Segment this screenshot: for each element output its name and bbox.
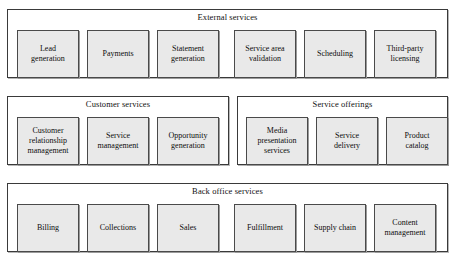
node-box[interactable]: Billing: [17, 204, 79, 252]
diagram-canvas: External servicesLead generationPayments…: [0, 0, 455, 265]
node-box[interactable]: Opportunity generation: [157, 117, 219, 165]
node-label: Lead generation: [31, 44, 65, 64]
node-box[interactable]: Content management: [374, 204, 436, 252]
node-label: Opportunity generation: [168, 131, 207, 151]
node-label: Media presentation services: [257, 126, 296, 156]
node-box[interactable]: Sales: [157, 204, 219, 252]
node-box[interactable]: Scheduling: [304, 30, 366, 78]
group-nodes: BillingCollectionsSalesFulfillmentSupply…: [8, 197, 447, 251]
node-label: Collections: [100, 223, 136, 233]
node-label: Payments: [102, 49, 133, 59]
node-label: Sales: [180, 223, 197, 233]
node-label: Product catalog: [405, 131, 430, 151]
node-box[interactable]: Product catalog: [386, 117, 448, 165]
node-box[interactable]: Media presentation services: [246, 117, 308, 165]
node-box[interactable]: Third-party licensing: [374, 30, 436, 78]
group-external-services: External servicesLead generationPayments…: [7, 9, 448, 78]
group-nodes: Customer relationship managementService …: [8, 110, 228, 164]
group-customer-services: Customer servicesCustomer relationship m…: [7, 96, 229, 165]
node-label: Supply chain: [314, 223, 356, 233]
node-label: Third-party licensing: [387, 44, 424, 64]
node-label: Scheduling: [317, 49, 353, 59]
node-box[interactable]: Supply chain: [304, 204, 366, 252]
group-title: External services: [8, 12, 447, 22]
node-label: Customer relationship management: [28, 126, 69, 156]
group-back-office-services: Back office servicesBillingCollectionsSa…: [7, 183, 448, 252]
node-box[interactable]: Statement generation: [157, 30, 219, 78]
node-box[interactable]: Lead generation: [17, 30, 79, 78]
node-label: Service management: [98, 131, 139, 151]
node-box[interactable]: Service management: [87, 117, 149, 165]
node-label: Billing: [37, 223, 59, 233]
node-box[interactable]: Service area validation: [234, 30, 296, 78]
group-title: Service offerings: [238, 99, 447, 109]
node-label: Service delivery: [334, 131, 360, 151]
node-box[interactable]: Fulfillment: [234, 204, 296, 252]
group-title: Back office services: [8, 186, 447, 196]
node-label: Statement generation: [171, 44, 205, 64]
node-label: Fulfillment: [247, 223, 283, 233]
node-box[interactable]: Payments: [87, 30, 149, 78]
group-service-offerings: Service offeringsMedia presentation serv…: [237, 96, 448, 165]
node-box[interactable]: Collections: [87, 204, 149, 252]
node-label: Content management: [385, 218, 426, 238]
group-nodes: Media presentation servicesService deliv…: [238, 110, 447, 164]
group-title: Customer services: [8, 99, 228, 109]
node-label: Service area validation: [245, 44, 284, 64]
node-box[interactable]: Service delivery: [316, 117, 378, 165]
group-nodes: Lead generationPaymentsStatement generat…: [8, 23, 447, 77]
node-box[interactable]: Customer relationship management: [17, 117, 79, 165]
